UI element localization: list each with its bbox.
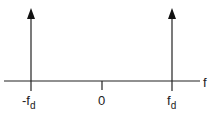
arrowhead-icon xyxy=(168,8,176,19)
impulse-pos-fd xyxy=(168,8,176,81)
tick-label-neg-fd: -fd xyxy=(22,94,36,107)
tick-label-pos-fd: fd xyxy=(167,94,176,107)
tick-label-zero: 0 xyxy=(98,94,105,107)
impulse-neg-fd xyxy=(27,8,35,81)
arrowhead-icon xyxy=(27,8,35,19)
axis-label-f: f xyxy=(203,76,207,89)
subscript-d: d xyxy=(30,100,36,111)
subscript-d: d xyxy=(171,100,177,111)
